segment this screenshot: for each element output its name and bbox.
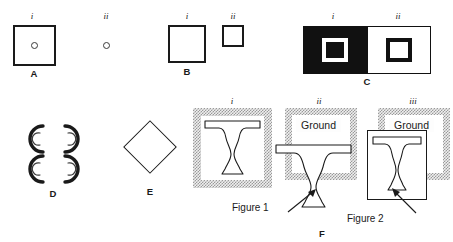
panel-e-diamond	[123, 120, 177, 174]
panel-f-i-vase	[201, 116, 264, 180]
panel-f-arrow-figure-1	[286, 188, 322, 214]
panel-f-label-iii: iii	[404, 96, 422, 106]
panel-d-arcs	[14, 118, 94, 190]
panel-f-ii-ground-label: Ground	[296, 118, 341, 132]
panel-b-small-square	[222, 25, 244, 47]
panel-b-label-ii: ii	[226, 11, 240, 21]
panel-b-caption: B	[179, 66, 195, 77]
panel-a-label-ii: ii	[99, 11, 113, 21]
panel-f-label-i: i	[225, 96, 239, 106]
panel-c-black-ring	[386, 38, 412, 62]
panel-f-callout-figure-1: Figure 1	[232, 202, 269, 213]
panel-f-caption: F	[314, 228, 330, 239]
panel-a-caption: A	[26, 68, 42, 79]
panel-a-circle-alone	[103, 42, 110, 49]
panel-c-label-ii: ii	[391, 11, 405, 21]
panel-d-arc-bottom-left	[30, 156, 43, 182]
panel-a-label-i: i	[25, 11, 39, 21]
panel-d-arc-top-right	[65, 126, 78, 152]
panel-d-arc-bottom-right	[65, 156, 78, 182]
panel-e-caption: E	[142, 186, 158, 197]
panel-f-callout-figure-2: Figure 2	[347, 213, 384, 224]
panel-a-circle-inside	[31, 42, 38, 49]
panel-d-caption: D	[45, 188, 61, 199]
panel-b-label-i: i	[180, 11, 194, 21]
panel-c-white-ring	[322, 38, 348, 62]
panel-c-label-i: i	[326, 11, 340, 21]
panel-b-large-square	[168, 25, 206, 63]
panel-f-arrow-figure-2	[390, 187, 422, 215]
figure-root: i ii A i ii B i ii C	[0, 0, 453, 242]
panel-f-label-ii: ii	[311, 96, 327, 106]
panel-c-caption: C	[359, 76, 375, 87]
panel-d-arc-top-left	[30, 126, 43, 152]
